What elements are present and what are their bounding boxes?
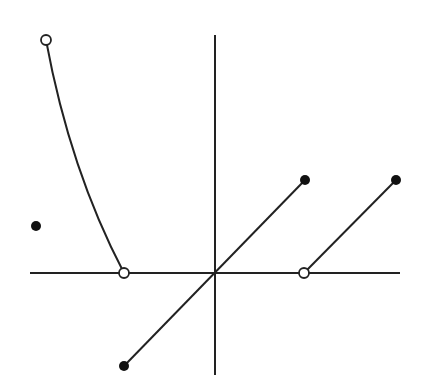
piece-right-line [304, 180, 396, 273]
right-line [304, 180, 396, 273]
open-point-left-axis [119, 268, 129, 278]
open-point-left-top [41, 35, 51, 45]
piece-left-curve [46, 40, 124, 273]
closed-point-right-top [391, 175, 401, 185]
left-curve [46, 40, 124, 273]
function-graph [0, 0, 425, 388]
axes [30, 35, 400, 375]
open-point-right-axis [299, 268, 309, 278]
closed-point-middle-top [300, 175, 310, 185]
closed-point-middle-bottom [119, 361, 129, 371]
closed-point-isolated [31, 221, 41, 231]
